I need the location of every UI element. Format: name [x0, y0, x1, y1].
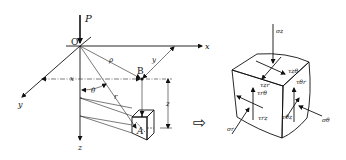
sigma-z-label: σz: [276, 27, 284, 34]
y-axis: [22, 46, 80, 97]
sigma-theta-arrow: [299, 106, 322, 116]
tau-theta-z-label: τθz: [282, 113, 293, 120]
tau-zr-label: τzr: [260, 81, 270, 88]
projection-line-3: [80, 116, 132, 133]
y-dimension: [143, 47, 174, 78]
projection-line-2: [80, 98, 132, 108]
origin-tick: [80, 37, 91, 46]
tau-r-theta-label: τrθ: [257, 89, 267, 96]
sigma-r-label: σr: [227, 125, 235, 132]
left-coordinate-diagram: P O x y z ρ B y x r θ: [17, 13, 210, 152]
tau-rz-label: τrz: [258, 114, 268, 121]
projection-line-4: [80, 116, 132, 125]
origin-label: O: [71, 37, 78, 47]
boussinesq-diagram: P O x y z ρ B y x r θ: [0, 0, 346, 160]
tau-theta-r-label: τθr: [296, 78, 307, 85]
cube-front-face: [232, 70, 283, 138]
stress-element-cube: σz τzθ τzr τrθ τrz σr τθr τθz σθ: [227, 24, 330, 138]
tau-z-theta-arrow: [256, 61, 285, 74]
tau-zr-arrow: [262, 57, 281, 79]
z-dimension-label: z: [165, 100, 170, 108]
projection-line-1: [80, 98, 132, 116]
point-A-label: A: [136, 126, 144, 136]
r-line: [80, 46, 136, 128]
r-label: r: [114, 93, 118, 101]
tau-rz-arrow: [237, 96, 263, 108]
sigma-theta-label: σθ: [322, 116, 330, 123]
z-axis-label: z: [77, 143, 83, 152]
load-label: P: [84, 13, 92, 24]
x-axis-label: x: [205, 42, 210, 51]
transition-arrow: ⇨: [193, 113, 206, 132]
x-dimension-label: x: [70, 75, 74, 83]
tau-z-theta-label: τzθ: [288, 67, 298, 74]
point-B-label: B: [137, 66, 144, 76]
sigma-r-arrow: [232, 108, 249, 134]
y-axis-label: y: [17, 100, 23, 109]
y-dimension-label: y: [151, 56, 157, 64]
rho-label: ρ: [108, 56, 114, 64]
